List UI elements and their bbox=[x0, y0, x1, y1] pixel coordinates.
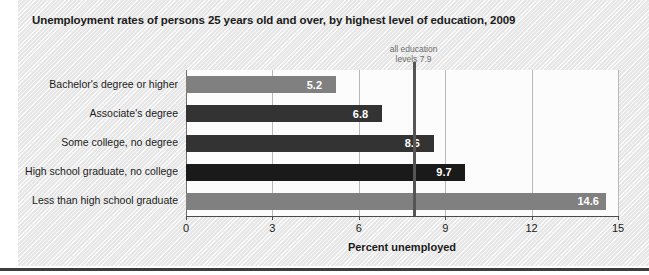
bar-value-label: 6.8 bbox=[353, 108, 368, 120]
axis-tick-label: 12 bbox=[525, 222, 537, 234]
chart-title: Unemployment rates of persons 25 years o… bbox=[32, 14, 515, 26]
bar-row: 6.8 bbox=[186, 105, 618, 122]
bar-value-label: 9.7 bbox=[436, 166, 451, 178]
value-axis-title: Percent unemployed bbox=[186, 241, 618, 253]
bar-row: 14.6 bbox=[186, 193, 618, 210]
bar[interactable] bbox=[186, 193, 606, 210]
reference-line-annotation-line1: all education bbox=[390, 44, 438, 54]
axis-tick bbox=[359, 216, 360, 220]
category-label: Associate's degree bbox=[0, 107, 178, 119]
axis-tick-label: 6 bbox=[356, 222, 362, 234]
category-label: Some college, no degree bbox=[0, 136, 178, 148]
category-label: Bachelor's degree or higher bbox=[0, 78, 178, 90]
axis-tick-label: 9 bbox=[442, 222, 448, 234]
axis-tick bbox=[532, 216, 533, 220]
bar-row: 8.6 bbox=[186, 135, 618, 152]
bar-value-label: 14.6 bbox=[577, 195, 598, 207]
bar-row: 9.7 bbox=[186, 164, 618, 181]
axis-tick-label: 0 bbox=[183, 222, 189, 234]
axis-tick bbox=[618, 216, 619, 220]
plot-area: 5.26.88.69.714.6 bbox=[186, 70, 618, 216]
gridline bbox=[618, 70, 619, 216]
axis-tick bbox=[186, 216, 187, 220]
axis-tick-label: 15 bbox=[612, 222, 624, 234]
bottom-rule bbox=[0, 268, 649, 271]
reference-line-all-education-levels bbox=[413, 62, 416, 216]
bar-row: 5.2 bbox=[186, 76, 618, 93]
chart-figure: Unemployment rates of persons 25 years o… bbox=[0, 0, 649, 275]
category-label: High school graduate, no college bbox=[0, 165, 178, 177]
bar-value-label: 5.2 bbox=[307, 79, 322, 91]
bar[interactable] bbox=[186, 164, 465, 181]
axis-tick bbox=[445, 216, 446, 220]
category-label: Less than high school graduate bbox=[0, 194, 178, 206]
axis-tick-label: 3 bbox=[269, 222, 275, 234]
value-axis-line bbox=[186, 216, 619, 217]
axis-tick bbox=[272, 216, 273, 220]
bar[interactable] bbox=[186, 135, 434, 152]
